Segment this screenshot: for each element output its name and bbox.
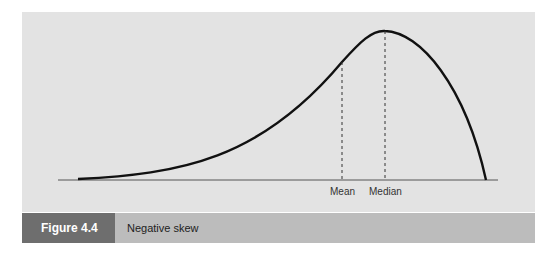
median-label: Median	[369, 186, 402, 197]
mean-label: Mean	[330, 186, 355, 197]
figure-caption-bar: Figure 4.4 Negative skew	[22, 213, 535, 243]
figure-title: Negative skew	[115, 213, 199, 243]
figure-number: Figure 4.4	[22, 213, 115, 243]
distribution-curve	[78, 31, 486, 180]
